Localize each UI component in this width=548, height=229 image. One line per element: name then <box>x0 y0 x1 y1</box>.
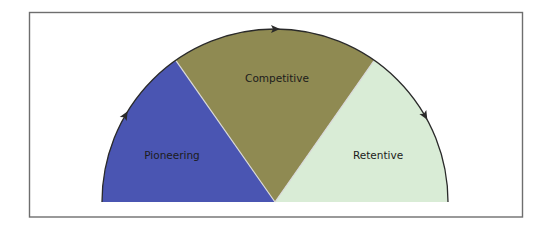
segment-label-pioneering: Pioneering <box>144 149 200 161</box>
lifecycle-diagram: Pioneering Competitive Retentive <box>0 0 548 229</box>
segments <box>102 29 448 202</box>
segment-label-competitive: Competitive <box>245 72 309 84</box>
segment-label-retentive: Retentive <box>353 149 403 161</box>
